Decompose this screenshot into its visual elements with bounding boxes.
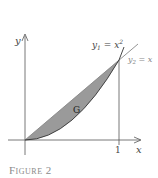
- x-axis-label: x: [136, 144, 142, 155]
- tick-label-1: 1: [115, 145, 121, 155]
- curve-y1: [25, 47, 124, 140]
- y-axis-label: y: [14, 35, 21, 46]
- figure-diagram: y x 1 G y1 = x2 y2 = x: [0, 0, 158, 178]
- curve1-label: y1 = x2: [91, 38, 123, 51]
- figure-caption: Figure 2: [9, 164, 52, 176]
- region-label: G: [73, 105, 80, 115]
- curve2-label: y2 = x: [127, 55, 153, 65]
- line-y2: [25, 44, 138, 140]
